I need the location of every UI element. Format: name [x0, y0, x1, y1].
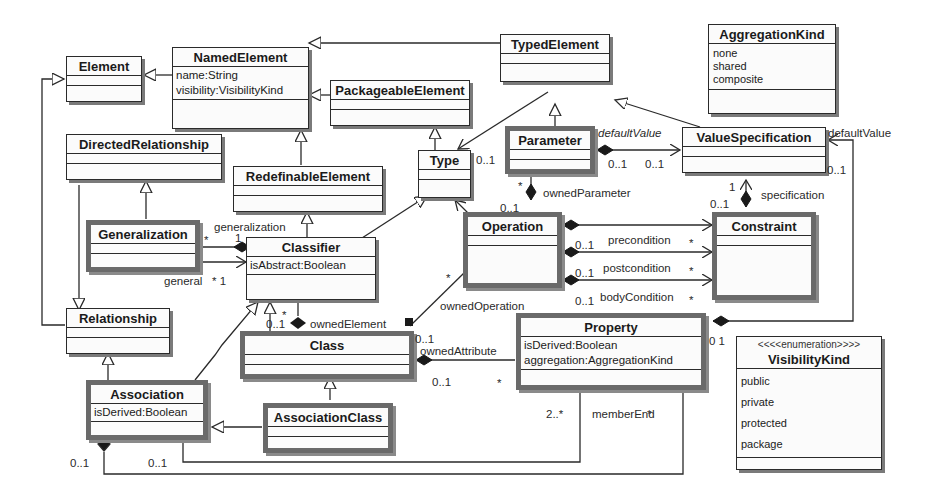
attributes-compartment: [331, 100, 469, 110]
enum-literal: shared: [713, 60, 831, 73]
multiplicity: 0..1: [575, 267, 594, 279]
class-value-specification[interactable]: ValueSpecification: [682, 127, 826, 173]
class-element[interactable]: Element: [66, 56, 142, 102]
class-name: Class: [245, 336, 409, 355]
class-constraint[interactable]: Constraint: [712, 212, 816, 300]
class-name: TypedElement: [501, 35, 609, 54]
attributes-compartment: [67, 328, 169, 338]
enum-literal: composite: [713, 73, 831, 86]
literals-compartment: none shared composite: [709, 44, 835, 90]
attributes-compartment: [67, 154, 221, 164]
attributes-compartment: [510, 150, 590, 160]
role-precondition: precondition: [608, 234, 671, 246]
operations-compartment: [234, 196, 382, 203]
multiplicity: 1: [729, 181, 735, 193]
enum-literal: public: [741, 371, 877, 392]
attributes-compartment: [419, 170, 470, 180]
class-parameter[interactable]: Parameter: [505, 126, 595, 174]
enum-literal: private: [741, 392, 877, 413]
multiplicity: *: [689, 265, 693, 277]
role-specification: specification: [761, 189, 824, 201]
class-association-class[interactable]: AssociationClass: [263, 403, 393, 453]
class-name: Element: [67, 57, 141, 76]
role-general: general: [164, 275, 202, 287]
class-classifier[interactable]: Classifier isAbstract:Boolean: [246, 237, 376, 300]
class-name: Association: [91, 385, 203, 404]
class-operation[interactable]: Operation: [463, 212, 562, 288]
enum-aggregation-kind[interactable]: AggregationKind none shared composite: [708, 24, 836, 114]
attributes-compartment: [91, 244, 195, 254]
role-body-condition: bodyCondition: [600, 291, 674, 303]
operations-compartment: [268, 437, 388, 444]
multiplicity: 0..1: [476, 154, 495, 166]
attributes-compartment: [501, 54, 609, 64]
class-name: Operation: [468, 217, 557, 236]
class-name: ValueSpecification: [683, 128, 825, 147]
multiplicity: 0..1: [148, 457, 167, 469]
class-name: VisibilityKind: [737, 350, 881, 369]
class-redefinable-element[interactable]: RedefinableElement: [233, 166, 383, 212]
class-generalization[interactable]: Generalization: [86, 220, 200, 272]
attribute: name:String: [176, 68, 305, 83]
attributes-compartment: [268, 427, 388, 437]
enum-literal: package: [741, 434, 877, 455]
multiplicity: *: [689, 237, 693, 249]
enum-literal: protected: [741, 413, 877, 434]
attributes-compartment: isAbstract:Boolean: [247, 257, 375, 275]
enum-literal: none: [713, 47, 831, 60]
class-name: NamedElement: [173, 48, 308, 67]
operations-compartment: [683, 157, 825, 164]
attributes-compartment: isDerived:Boolean: [91, 404, 203, 422]
class-packageable-element[interactable]: PackageableElement: [330, 80, 470, 126]
role-default-value: defaultValue: [598, 127, 662, 139]
class-name: Classifier: [247, 238, 375, 257]
class-type[interactable]: Type: [418, 150, 471, 198]
operations-compartment: [67, 86, 141, 93]
multiplicity: 0..1: [500, 202, 519, 214]
multiplicity: 0..1: [575, 295, 594, 307]
attributes-compartment: [245, 355, 409, 365]
multiplicity: *: [282, 309, 286, 321]
class-directed-relationship[interactable]: DirectedRelationship: [66, 134, 222, 180]
multiplicity: *: [689, 294, 693, 306]
attribute: isAbstract:Boolean: [250, 258, 372, 273]
multiplicity: 0 1: [709, 335, 725, 347]
class-name: RedefinableElement: [234, 167, 382, 186]
class-typed-element[interactable]: TypedElement: [500, 34, 610, 82]
operations-compartment: [521, 370, 701, 377]
operations-compartment: [247, 275, 375, 282]
attribute: isDerived:Boolean: [94, 405, 200, 420]
attributes-compartment: [234, 186, 382, 196]
operations-compartment: [245, 365, 409, 372]
class-association[interactable]: Association isDerived:Boolean: [86, 380, 208, 440]
class-class[interactable]: Class: [240, 331, 414, 379]
stereotype-label: <<<<enumeration>>>>: [737, 337, 881, 350]
operations-compartment: [709, 90, 835, 97]
multiplicity: 2..*: [546, 408, 563, 420]
class-name: AssociationClass: [268, 408, 388, 427]
attributes-compartment: [683, 147, 825, 157]
operations-compartment: [91, 254, 195, 261]
class-name: DirectedRelationship: [67, 135, 221, 154]
class-named-element[interactable]: NamedElement name:String visibility:Visi…: [172, 47, 309, 129]
operations-compartment: [67, 338, 169, 345]
multiplicity: 1: [235, 232, 241, 244]
attributes-compartment: [67, 76, 141, 86]
class-property[interactable]: Property isDerived:Boolean aggregation:A…: [516, 313, 706, 390]
multiplicity: 0..1: [710, 198, 729, 210]
enum-visibility-kind[interactable]: <<<<enumeration>>>> VisibilityKind publi…: [736, 336, 882, 470]
multiplicity: *: [446, 272, 450, 284]
multiplicity: *: [204, 234, 208, 246]
role-generalization: generalization: [214, 221, 286, 233]
multiplicity: 0..1: [575, 239, 594, 251]
attributes-compartment: isDerived:Boolean aggregation:Aggregatio…: [521, 337, 701, 370]
operations-compartment: [173, 100, 308, 107]
multiplicity: *: [518, 180, 522, 192]
class-name: Constraint: [717, 217, 811, 236]
role-owned-element: ownedElement: [310, 318, 386, 330]
class-relationship[interactable]: Relationship: [66, 308, 170, 354]
multiplicity: 0..1: [608, 158, 627, 170]
role-member-end: memberEnd: [592, 408, 655, 420]
multiplicity: 0..1: [415, 333, 434, 345]
role-default-value: defaultValue: [828, 127, 891, 139]
